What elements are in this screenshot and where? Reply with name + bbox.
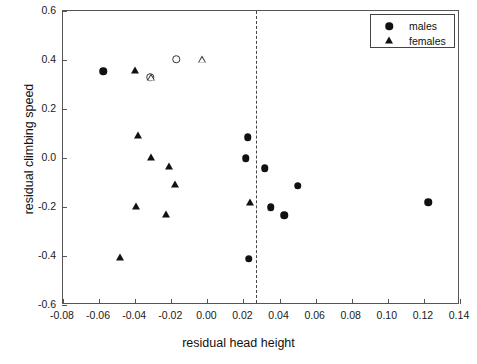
x-tick-mark	[352, 299, 353, 304]
y-tick-label: -0.4	[38, 249, 56, 261]
data-point-males	[245, 255, 253, 263]
x-tick-mark	[171, 299, 172, 304]
scatter-plot-figure: -0.08-0.06-0.04-0.020.000.020.040.060.08…	[0, 0, 477, 364]
x-tick-mark	[460, 299, 461, 304]
x-tick-label: -0.08	[50, 309, 74, 321]
x-tick-label: -0.02	[158, 309, 182, 321]
data-point-males	[261, 164, 269, 172]
y-tick-mark	[62, 109, 67, 110]
y-tick-label: 0.0	[41, 151, 56, 163]
x-tick-mark	[207, 299, 208, 304]
x-axis-title: residual head height	[0, 336, 477, 350]
y-tick-mark	[62, 11, 67, 12]
y-tick-label: -0.2	[38, 200, 56, 212]
data-point-females	[147, 154, 155, 161]
y-tick-mark	[62, 207, 67, 208]
x-tick-label: -0.06	[86, 309, 110, 321]
x-tick-mark	[316, 299, 317, 304]
legend-marker-triangle	[385, 37, 393, 44]
x-tick-mark	[388, 299, 389, 304]
data-point-females	[132, 203, 140, 210]
legend-marker-circle	[385, 22, 393, 30]
data-point-females	[162, 211, 170, 218]
y-tick-label: -0.6	[38, 298, 56, 310]
y-tick-mark	[62, 60, 67, 61]
x-tick-mark	[424, 299, 425, 304]
x-tick-label: 0.02	[232, 309, 252, 321]
x-tick-label: -0.04	[122, 309, 146, 321]
data-point-open-triangles	[147, 74, 155, 81]
plot-area	[62, 10, 459, 304]
y-tick-label: 0.4	[41, 53, 56, 65]
y-tick-mark	[62, 158, 67, 159]
data-point-males	[424, 198, 432, 206]
y-tick-mark	[62, 305, 67, 306]
data-point-females	[116, 254, 124, 261]
legend-label: females	[409, 35, 446, 47]
data-point-males	[267, 203, 275, 211]
x-tick-label: 0.14	[449, 309, 469, 321]
data-point-females	[165, 163, 173, 170]
legend-box: malesfemales	[370, 14, 455, 48]
data-point-females	[131, 67, 139, 74]
data-point-females	[171, 181, 179, 188]
data-point-males	[242, 154, 250, 162]
x-tick-label: 0.08	[341, 309, 361, 321]
data-point-males	[244, 133, 252, 141]
x-tick-label: 0.04	[268, 309, 288, 321]
y-axis-title: residual climbing speed	[22, 34, 36, 264]
y-tick-label: 0.6	[41, 4, 56, 16]
data-point-males	[294, 182, 302, 190]
data-point-males	[99, 67, 107, 75]
legend-entry-males: males	[371, 19, 454, 34]
y-tick-mark	[62, 256, 67, 257]
threshold-dashed-line	[256, 11, 257, 303]
x-tick-label: 0.10	[377, 309, 397, 321]
data-point-females	[134, 132, 142, 139]
x-tick-mark	[63, 299, 64, 304]
data-point-open-circles	[172, 55, 180, 63]
data-point-males	[281, 211, 289, 219]
x-tick-label: 0.12	[413, 309, 433, 321]
x-tick-label: 0.06	[304, 309, 324, 321]
x-tick-mark	[99, 299, 100, 304]
x-tick-mark	[280, 299, 281, 304]
x-tick-label: 0.00	[196, 309, 216, 321]
data-point-open-triangles	[198, 56, 206, 63]
y-tick-label: 0.2	[41, 102, 56, 114]
x-tick-mark	[243, 299, 244, 304]
legend-label: males	[409, 20, 437, 32]
data-point-females	[246, 198, 254, 205]
legend-entry-females: females	[371, 34, 454, 49]
x-tick-mark	[135, 299, 136, 304]
